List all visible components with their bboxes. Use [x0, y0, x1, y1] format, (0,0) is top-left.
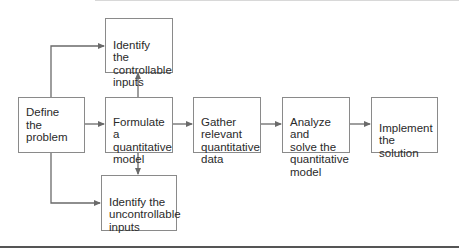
node-label: Identify the uncontrollable inputs: [109, 196, 181, 233]
node-uncontrollable-inputs: Identify the uncontrollable inputs: [101, 175, 177, 231]
arrow-define-to-controllable: [51, 46, 104, 97]
node-label: Define the problem: [26, 106, 77, 144]
node-implement-solution: Implement the solution: [371, 97, 438, 153]
node-analyze-solve: Analyze and solve the quantitative model: [282, 97, 350, 153]
node-label: Implement the solution: [379, 122, 433, 159]
bottom-rule: [0, 246, 459, 248]
node-formulate-model: Formulate a quantitative model: [105, 97, 173, 153]
node-controllable-inputs: Identify the controllable inputs: [105, 18, 173, 73]
arrow-define-to-uncontrollable: [51, 152, 100, 203]
node-define-problem: Define the problem: [18, 97, 85, 153]
node-gather-data: Gather relevant quantitative data: [193, 97, 261, 153]
